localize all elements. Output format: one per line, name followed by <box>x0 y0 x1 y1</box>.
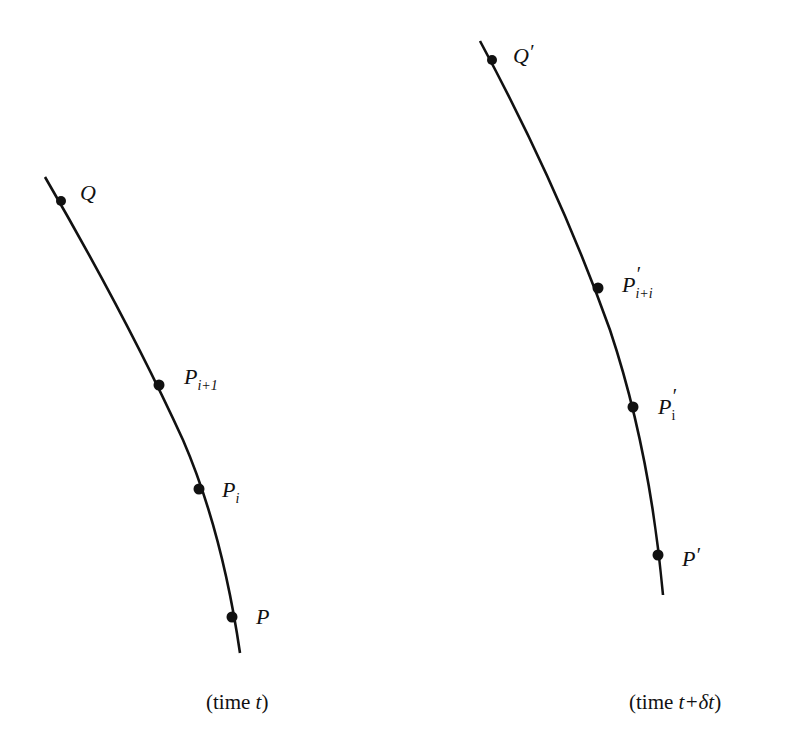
point-P-i <box>194 484 205 495</box>
label-P-prime-i-sub: i <box>671 408 675 423</box>
label-P-text: P <box>256 604 269 629</box>
label-P-prime-i-plus-i-text: P <box>622 272 635 297</box>
label-P-i-plus-1: Pi+1 <box>184 366 218 393</box>
label-P-prime-text: P <box>682 546 695 571</box>
label-Q: Q <box>80 182 96 204</box>
point-P <box>227 612 238 623</box>
label-P-prime-i-plus-i-mark: ′ <box>635 264 639 284</box>
label-P-prime-mark: ′ <box>695 544 699 566</box>
label-P-prime-i: P′i <box>658 396 675 423</box>
caption-time-t-plus-dt-prefix: (time <box>629 690 679 714</box>
label-Q-prime: Q′ <box>513 42 533 67</box>
point-P-prime-i-plus-i <box>593 283 604 294</box>
label-P-prime-i-text: P <box>658 394 671 419</box>
point-P-i-plus-1 <box>154 380 165 391</box>
label-P-prime-i-plus-i: P′i+i <box>622 274 653 301</box>
point-P-prime <box>653 550 664 561</box>
caption-time-t-suffix: ) <box>261 690 268 714</box>
point-Q <box>56 196 66 206</box>
label-P-i: Pi <box>222 479 239 506</box>
diagram-canvas <box>0 0 788 747</box>
label-P-prime-i-mark: ′ <box>671 386 675 406</box>
caption-time-t: (time t) <box>206 690 268 715</box>
caption-time-t-plus-dt-var: t+δt <box>679 690 715 714</box>
point-Q-prime <box>487 55 497 65</box>
caption-time-t-plus-dt-suffix: ) <box>714 690 721 714</box>
curve-time-t-plus-dt <box>480 41 663 595</box>
label-Q-prime-text: Q <box>513 43 529 68</box>
label-P-prime: P′ <box>682 545 700 570</box>
label-Q-prime-mark: ′ <box>529 41 533 63</box>
label-P-i-plus-1-sub: i+1 <box>197 378 217 393</box>
label-P: P <box>256 606 269 628</box>
curve-time-t <box>45 177 240 653</box>
label-P-prime-i-plus-i-sub: i+i <box>635 286 652 301</box>
point-P-prime-i <box>628 402 639 413</box>
label-Q-text: Q <box>80 180 96 205</box>
label-P-i-plus-1-text: P <box>184 364 197 389</box>
label-P-i-text: P <box>222 477 235 502</box>
label-P-i-sub: i <box>235 491 239 506</box>
caption-time-t-plus-dt: (time t+δt) <box>629 690 721 715</box>
caption-time-t-prefix: (time <box>206 690 256 714</box>
